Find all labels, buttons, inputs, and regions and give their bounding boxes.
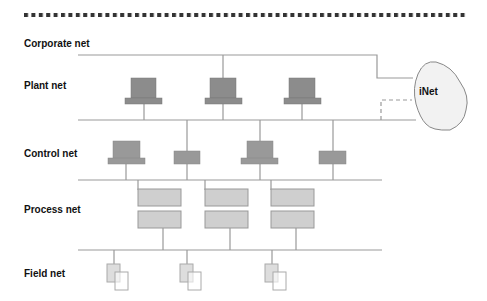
field-devices <box>107 264 286 290</box>
dotted-divider <box>24 13 468 17</box>
layer-label-field: Field net <box>24 268 65 279</box>
layer-label-control: Control net <box>24 148 77 159</box>
inet-label: iNet <box>419 86 438 97</box>
plant-computers <box>125 78 321 104</box>
process-controllers <box>138 189 314 228</box>
inet-dashed-link <box>381 100 412 120</box>
control-devices <box>108 141 346 164</box>
corporate-net-line <box>78 55 413 78</box>
layer-label-process: Process net <box>24 204 81 215</box>
layer-label-plant: Plant net <box>24 80 66 91</box>
layer-label-corporate: Corporate net <box>24 38 90 49</box>
